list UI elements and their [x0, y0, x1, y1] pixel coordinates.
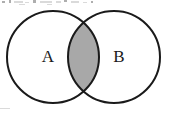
- scan-speck: [47, 4, 52, 5]
- scan-speck: [0, 108, 10, 109]
- scan-speck: [2, 1, 5, 3]
- scan-speck: [40, 1, 52, 3]
- set-b-label: B: [113, 47, 124, 66]
- venn-diagram-canvas: A B: [0, 0, 174, 113]
- scan-speck: [71, 1, 79, 3]
- scan-speck: [19, 4, 25, 5]
- scan-speck: [83, 2, 87, 3]
- scan-speck: [14, 1, 23, 3]
- scan-speck: [91, 1, 93, 3]
- scan-speck: [25, 2, 29, 3]
- venn-diagram-figure: A B: [0, 0, 174, 113]
- scan-speck: [33, 0, 36, 3]
- set-a-label: A: [42, 47, 55, 66]
- scan-speck: [9, 0, 11, 3]
- scan-speck: [64, 0, 67, 2]
- scan-speck: [56, 1, 61, 3]
